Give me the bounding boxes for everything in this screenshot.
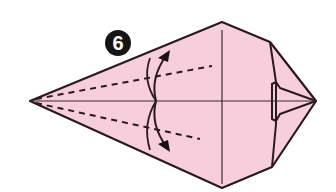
origami-diagram (0, 0, 336, 192)
